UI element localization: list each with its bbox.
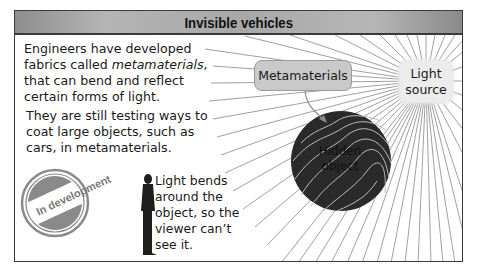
intro-line: Engineers have developed <box>24 41 191 56</box>
light-source-label: Light <box>410 66 441 82</box>
viewer-note-line: see it. <box>155 237 193 252</box>
testing-text: They are still testing ways to coat larg… <box>26 108 208 156</box>
metamaterials-label-box: Metamaterials <box>254 60 352 91</box>
testing-line: coat large objects, such as <box>26 124 194 139</box>
hidden-object-line: Hidden <box>305 144 375 159</box>
intro-text: Engineers have developed fabrics called … <box>24 41 208 105</box>
testing-line: They are still testing ways to <box>26 108 208 123</box>
metamaterials-label: Metamaterials <box>258 68 348 83</box>
infographic-panel: Invisible vehicles Engineers have develo… <box>14 10 463 262</box>
viewer-note-line: Light bends <box>155 173 228 188</box>
header-bar: Invisible vehicles <box>15 11 462 35</box>
hidden-object-label: Hidden object <box>305 144 375 174</box>
metamaterials-emphasis: metamaterials <box>112 57 204 72</box>
intro-line: that can bend and reflect <box>24 73 184 88</box>
viewer-note-line: viewer can’t <box>155 221 231 236</box>
viewer-note-line: around the <box>155 189 223 204</box>
intro-line: , <box>204 57 208 72</box>
viewer-note-text: Light bends around the object, so the vi… <box>155 173 239 253</box>
intro-line: fabrics called <box>24 57 112 72</box>
page-title: Invisible vehicles <box>184 14 293 31</box>
viewer-note-line: object, so the <box>155 205 239 220</box>
light-source-label-box: Light source <box>400 61 452 102</box>
intro-line: certain forms of light. <box>24 89 160 104</box>
light-source-label: source <box>405 82 447 98</box>
testing-line: cars, in metamaterials. <box>26 140 172 155</box>
hidden-object-line: object <box>305 159 375 174</box>
